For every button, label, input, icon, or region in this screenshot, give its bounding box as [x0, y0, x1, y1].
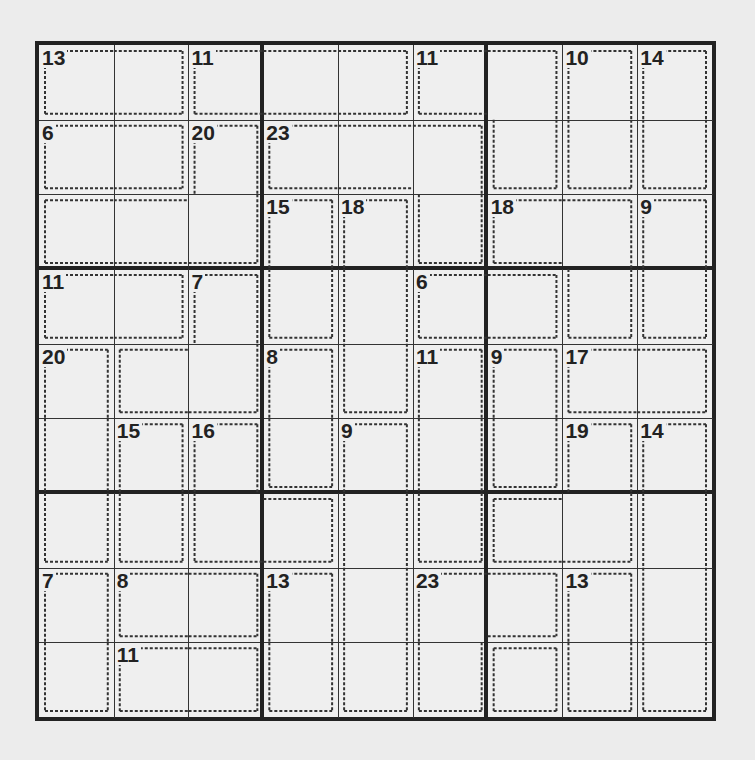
cell-r8c3[interactable] — [189, 568, 265, 644]
cell-r5c2[interactable] — [114, 344, 190, 420]
cell-r7c7[interactable] — [488, 493, 564, 569]
cage-sum-label: 18 — [341, 196, 366, 217]
killer-sudoku-board: 1311111014620231518189117620811917151691… — [35, 41, 716, 721]
cell-r3c2[interactable] — [114, 194, 190, 270]
cell-r1c4[interactable] — [263, 45, 339, 121]
cage-sum-label: 23 — [266, 122, 291, 143]
cell-r2c8[interactable] — [562, 120, 638, 196]
cage-sum-label: 6 — [42, 122, 56, 143]
cell-r3c6[interactable] — [413, 194, 489, 270]
cage-sum-label: 19 — [565, 420, 590, 441]
cell-r4c2[interactable] — [114, 269, 190, 345]
cell-r7c9[interactable] — [637, 493, 713, 569]
cage-sum-label: 11 — [416, 47, 440, 68]
cell-r5c3[interactable] — [189, 344, 265, 420]
cage-sum-label: 16 — [192, 420, 217, 441]
cell-r9c6[interactable] — [413, 642, 489, 718]
cell-r9c5[interactable] — [338, 642, 414, 718]
cell-r1c2[interactable] — [114, 45, 190, 121]
cage-sum-label: 6 — [416, 271, 430, 292]
cell-r5c9[interactable] — [637, 344, 713, 420]
cell-r4c9[interactable] — [637, 269, 713, 345]
cell-r9c3[interactable] — [189, 642, 265, 718]
cell-r3c8[interactable] — [562, 194, 638, 270]
cell-r6c4[interactable] — [263, 418, 339, 494]
cell-r3c3[interactable] — [189, 194, 265, 270]
cell-r5c5[interactable] — [338, 344, 414, 420]
cell-r4c4[interactable] — [263, 269, 339, 345]
cage-sum-label: 17 — [565, 346, 590, 367]
cage-sum-label: 13 — [266, 570, 291, 591]
cage-sum-label: 15 — [117, 420, 142, 441]
cage-sum-label: 11 — [117, 644, 141, 665]
cell-r1c7[interactable] — [488, 45, 564, 121]
cage-sum-label: 8 — [117, 570, 131, 591]
cell-r9c1[interactable] — [39, 642, 115, 718]
cell-r7c2[interactable] — [114, 493, 190, 569]
cell-r6c6[interactable] — [413, 418, 489, 494]
cell-r2c9[interactable] — [637, 120, 713, 196]
cage-sum-label: 10 — [565, 47, 590, 68]
cell-r9c4[interactable] — [263, 642, 339, 718]
cell-r6c7[interactable] — [488, 418, 564, 494]
cage-sum-label: 7 — [42, 570, 56, 591]
cage-sum-label: 14 — [640, 420, 665, 441]
cell-r2c5[interactable] — [338, 120, 414, 196]
cage-sum-label: 23 — [416, 570, 441, 591]
cell-r6c1[interactable] — [39, 418, 115, 494]
cell-r7c8[interactable] — [562, 493, 638, 569]
cell-r7c4[interactable] — [263, 493, 339, 569]
cage-sum-label: 8 — [266, 346, 280, 367]
cell-r4c5[interactable] — [338, 269, 414, 345]
cell-r7c5[interactable] — [338, 493, 414, 569]
cage-sum-label: 11 — [192, 47, 216, 68]
cell-r7c6[interactable] — [413, 493, 489, 569]
cell-r7c3[interactable] — [189, 493, 265, 569]
cell-r4c7[interactable] — [488, 269, 564, 345]
cell-r2c6[interactable] — [413, 120, 489, 196]
cell-r9c8[interactable] — [562, 642, 638, 718]
cage-sum-label: 11 — [416, 346, 440, 367]
cell-r9c9[interactable] — [637, 642, 713, 718]
cell-r2c2[interactable] — [114, 120, 190, 196]
cell-r2c7[interactable] — [488, 120, 564, 196]
cell-r4c8[interactable] — [562, 269, 638, 345]
cage-sum-label: 7 — [192, 271, 206, 292]
cell-r9c7[interactable] — [488, 642, 564, 718]
cage-sum-label: 20 — [192, 122, 217, 143]
cage-sum-label: 20 — [42, 346, 67, 367]
cage-sum-label: 18 — [491, 196, 516, 217]
cell-r7c1[interactable] — [39, 493, 115, 569]
cell-r3c1[interactable] — [39, 194, 115, 270]
cage-sum-label: 15 — [266, 196, 291, 217]
cage-sum-label: 13 — [42, 47, 67, 68]
cage-sum-label: 11 — [42, 271, 66, 292]
cell-r8c5[interactable] — [338, 568, 414, 644]
cage-sum-label: 9 — [341, 420, 355, 441]
cell-r8c9[interactable] — [637, 568, 713, 644]
cage-sum-label: 9 — [640, 196, 654, 217]
cage-sum-label: 14 — [640, 47, 665, 68]
cage-sum-label: 9 — [491, 346, 505, 367]
cage-sum-label: 13 — [565, 570, 590, 591]
cell-r8c7[interactable] — [488, 568, 564, 644]
cell-r1c5[interactable] — [338, 45, 414, 121]
